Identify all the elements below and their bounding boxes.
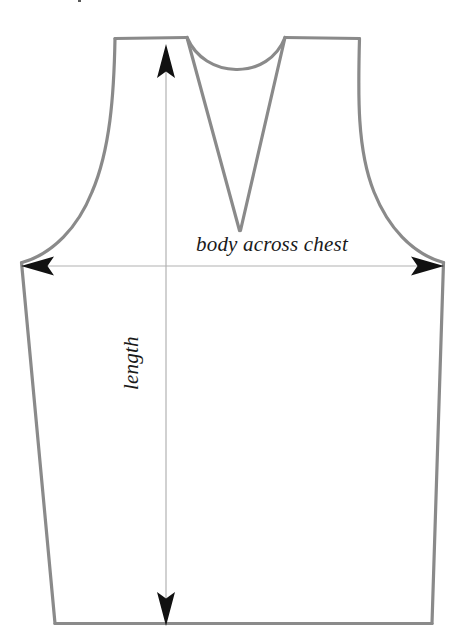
garment-outline-svg	[0, 0, 465, 640]
chest-dimension-label: body across chest	[196, 234, 348, 255]
right-armhole-curve	[359, 39, 444, 263]
length-dimension-line-group	[157, 44, 175, 626]
left-armhole-curve	[22, 39, 115, 263]
garment-diagram: body across chest length	[0, 0, 465, 640]
neckline-scoop-curve	[187, 38, 285, 70]
v-neck-left-edge	[187, 38, 240, 231]
v-neck-right-edge	[241, 38, 286, 231]
length-dimension-label: length	[121, 336, 142, 390]
right-shoulder-edge	[285, 38, 360, 39]
chest-dimension-line-group	[21, 257, 444, 276]
left-shoulder-edge	[115, 38, 187, 39]
right-side-seam	[432, 263, 444, 624]
garment-body-outline	[22, 38, 444, 624]
left-side-seam	[22, 263, 56, 624]
